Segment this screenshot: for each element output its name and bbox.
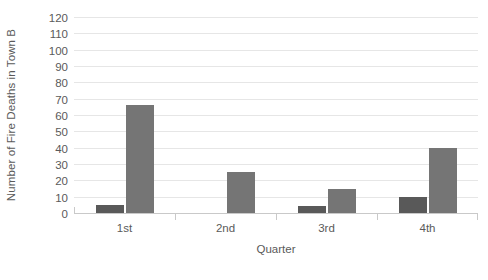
- bar[interactable]: [227, 172, 255, 213]
- bar-group: [298, 18, 356, 213]
- y-axis-title-text: Number of Fire Deaths in Town B: [5, 29, 17, 201]
- y-axis-title: Number of Fire Deaths in Town B: [0, 0, 22, 230]
- bar[interactable]: [328, 189, 356, 214]
- y-axis-tick-label: 40: [55, 143, 68, 155]
- y-axis-tick-label: 80: [55, 77, 68, 89]
- y-axis-tick-label: 120: [49, 12, 68, 24]
- x-axis-tick-labels: 1st2nd3rd4th: [74, 222, 478, 242]
- x-axis-tick: [276, 214, 277, 220]
- y-axis-tick-labels: 0102030405060708090100110120: [24, 11, 72, 221]
- bar[interactable]: [126, 105, 154, 213]
- bar[interactable]: [399, 197, 427, 213]
- bar[interactable]: [96, 205, 124, 213]
- y-axis-tick-label: 90: [55, 61, 68, 73]
- y-axis-tick-label: 100: [49, 45, 68, 57]
- x-axis-end-tick: [477, 213, 478, 220]
- x-axis-tick-label: 2nd: [216, 222, 235, 234]
- x-axis-tick: [175, 214, 176, 220]
- x-axis-title: Quarter: [74, 243, 478, 255]
- bar-chart: Number of Fire Deaths in Town B 01020304…: [0, 0, 488, 280]
- y-axis-tick-label: 20: [55, 175, 68, 187]
- y-axis-tick-label: 70: [55, 94, 68, 106]
- x-axis-tick-label: 1st: [117, 222, 132, 234]
- y-axis-tick-label: 0: [62, 208, 68, 220]
- y-axis-origin-tick: [74, 207, 75, 214]
- y-axis-tick-label: 60: [55, 110, 68, 122]
- y-axis-tick-label: 10: [55, 192, 68, 204]
- y-axis-tick-label: 110: [50, 28, 68, 40]
- bar-group: [96, 18, 154, 213]
- x-axis-tick-label: 4th: [420, 222, 436, 234]
- bar-group: [399, 18, 457, 213]
- y-axis-tick-label: 50: [55, 126, 68, 138]
- x-axis-tick: [377, 214, 378, 220]
- bar[interactable]: [298, 206, 326, 213]
- bar-group: [197, 18, 255, 213]
- x-axis-tick-label: 3rd: [318, 222, 335, 234]
- plot-area: [74, 18, 478, 214]
- y-axis-tick-label: 30: [55, 159, 68, 171]
- bar[interactable]: [429, 148, 457, 213]
